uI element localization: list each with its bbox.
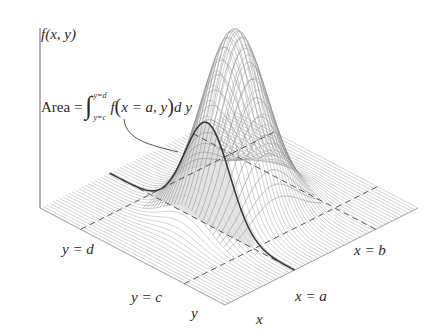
surface-plot bbox=[0, 0, 442, 336]
base-plane-grid bbox=[40, 29, 418, 305]
area-prefix: Area = bbox=[41, 100, 82, 115]
y-eq-c-label: y = c bbox=[131, 290, 162, 305]
upper-limit: y=d bbox=[93, 92, 106, 100]
x-axis-label: x bbox=[256, 312, 263, 327]
y-axis-label: y bbox=[191, 306, 198, 321]
integral-sign: ∫ bbox=[85, 93, 92, 119]
close-paren: ) bbox=[167, 96, 174, 116]
lower-limit: y=c bbox=[93, 114, 106, 122]
integrand-args: x = a, y bbox=[121, 100, 167, 115]
integral-limits: y=d y=c bbox=[93, 92, 106, 122]
differential: d y bbox=[174, 100, 192, 115]
x-eq-b-label: x = b bbox=[354, 243, 386, 258]
area-formula: Area = ∫ y=d y=c f ( x = a, y ) d y bbox=[41, 92, 192, 122]
z-axis-label: f(x, y) bbox=[41, 27, 76, 42]
y-eq-d-label: y = d bbox=[62, 242, 94, 257]
x-eq-a-label: x = a bbox=[295, 289, 327, 304]
open-paren: ( bbox=[115, 96, 122, 116]
